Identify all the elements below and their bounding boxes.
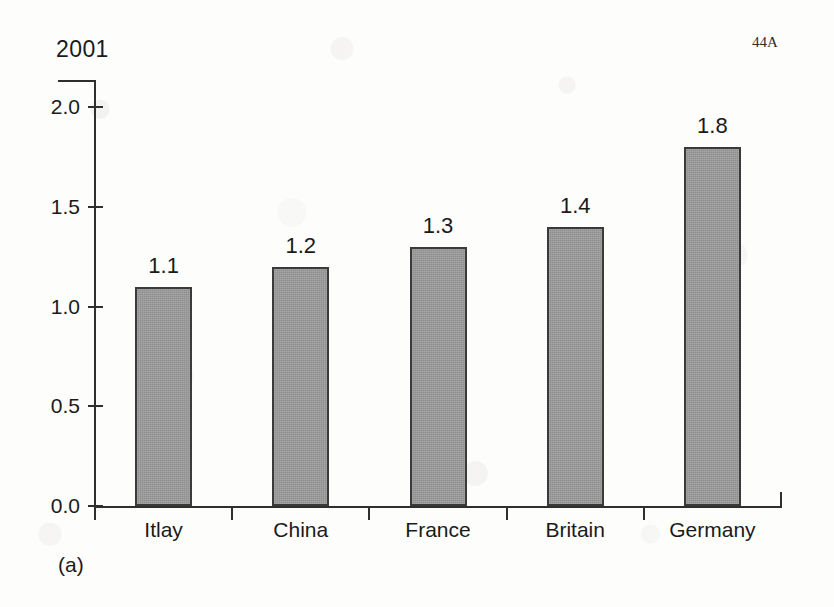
x-axis-category-label: Itlay: [144, 518, 183, 542]
y-axis-tick-label: 1.5: [22, 195, 80, 219]
y-axis-tick-label: 1.0: [22, 295, 80, 319]
bar-value-label: 1.2: [286, 233, 317, 259]
bar: [547, 227, 604, 506]
x-axis-category-label: Germany: [669, 518, 755, 542]
figure-page: 2001 44A 0.00.51.01.52.0 1.11.21.31.41.8…: [0, 0, 834, 607]
y-axis-tick: [88, 106, 103, 108]
x-axis-tick: [643, 506, 645, 520]
y-axis-tick: [88, 306, 103, 308]
x-axis-right-cap: [780, 492, 782, 508]
y-axis-tick-label: 0.5: [22, 394, 80, 418]
plot-area: 0.00.51.01.52.0 1.11.21.31.41.8 ItlayChi…: [0, 0, 834, 607]
x-axis-tick: [506, 506, 508, 520]
bar-value-label: 1.3: [423, 213, 454, 239]
y-axis-tick: [88, 405, 103, 407]
bar: [272, 267, 329, 506]
bar: [684, 147, 741, 506]
bar-value-label: 1.8: [697, 113, 728, 139]
x-axis-tick: [231, 506, 233, 520]
y-axis-line: [94, 80, 96, 508]
y-axis-tick: [88, 206, 103, 208]
bar: [410, 247, 467, 506]
x-axis-line: [94, 506, 782, 508]
x-axis-category-label: China: [273, 518, 328, 542]
figure-caption: (a): [58, 553, 84, 577]
bar-value-label: 1.1: [148, 253, 179, 279]
x-axis-category-label: Britain: [545, 518, 605, 542]
y-axis-tick-label: 0.0: [22, 494, 80, 518]
y-axis-tick-label: 2.0: [22, 95, 80, 119]
bar-value-label: 1.4: [560, 193, 591, 219]
x-axis-tick: [368, 506, 370, 520]
x-axis-category-label: France: [405, 518, 470, 542]
y-axis-top-cap: [58, 80, 96, 82]
bar: [135, 287, 192, 506]
x-axis-tick: [94, 506, 96, 520]
